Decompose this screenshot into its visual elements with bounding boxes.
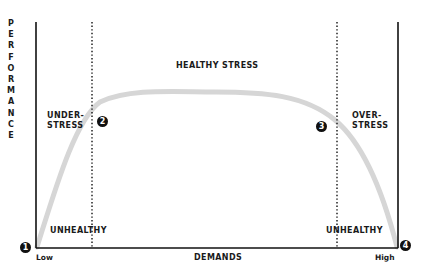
y-axis-label-letter: F [6, 52, 16, 63]
x-axis-label: DEMANDS [194, 253, 242, 263]
performance-curve [37, 91, 397, 247]
y-axis-label-letter: E [6, 130, 16, 141]
over-stress-line2: STRESS [352, 121, 388, 131]
y-axis-label-letter: C [6, 119, 16, 130]
over-stress-label: OVER- STRESS [352, 111, 388, 131]
y-axis-label-letter: R [6, 74, 16, 85]
over-stress-line1: OVER- [352, 111, 388, 121]
x-high-label: High [375, 253, 395, 262]
y-axis-label-letter: A [6, 96, 16, 107]
diagram-canvas [0, 0, 425, 279]
marker-2: 2 [97, 116, 108, 127]
y-axis-label-letter: E [6, 29, 16, 40]
marker-1: 1 [20, 242, 31, 253]
unhealthy-right-label: UNHEALTHY [326, 226, 383, 236]
y-axis-label: PERFORMANCE [6, 18, 16, 141]
y-axis-label-letter: R [6, 40, 16, 51]
y-axis-label-letter: O [6, 63, 16, 74]
unhealthy-left-label: UNHEALTHY [50, 226, 107, 236]
y-axis-label-letter: M [6, 85, 16, 96]
under-stress-line2: STRESS [47, 121, 84, 131]
marker-4: 4 [400, 240, 411, 251]
x-low-label: Low [36, 253, 53, 262]
under-stress-label: UNDER- STRESS [47, 111, 84, 131]
under-stress-line1: UNDER- [47, 111, 84, 121]
healthy-stress-label: HEALTHY STRESS [176, 61, 258, 71]
y-axis-label-letter: P [6, 18, 16, 29]
marker-3: 3 [316, 121, 327, 132]
y-axis-label-letter: N [6, 108, 16, 119]
